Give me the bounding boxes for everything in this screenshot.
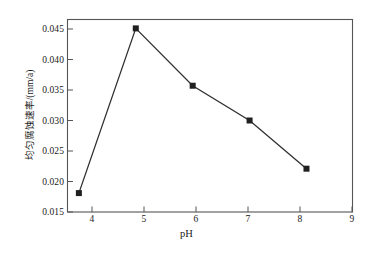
data-point bbox=[76, 190, 82, 196]
x-tick-label: 8 bbox=[290, 214, 310, 224]
y-tick-label: 0.045 bbox=[22, 24, 64, 34]
data-point bbox=[303, 166, 309, 172]
y-axis-title: 均匀腐蚀速率/(mm/a) bbox=[22, 40, 36, 190]
y-tick-label: 0.015 bbox=[22, 207, 64, 217]
data-point bbox=[247, 118, 253, 124]
x-tick-label: 9 bbox=[342, 214, 362, 224]
data-point bbox=[133, 25, 139, 31]
chart-figure: 0.045 0.040 0.035 0.030 0.025 0.020 0.01… bbox=[0, 0, 373, 253]
x-tick-label: 4 bbox=[82, 214, 102, 224]
x-tick-label: 7 bbox=[238, 214, 258, 224]
x-tick-label: 6 bbox=[186, 214, 206, 224]
x-tick-label: 5 bbox=[134, 214, 154, 224]
data-point bbox=[190, 83, 196, 89]
plot-frame bbox=[68, 20, 353, 213]
x-axis-title: pH bbox=[0, 228, 373, 239]
